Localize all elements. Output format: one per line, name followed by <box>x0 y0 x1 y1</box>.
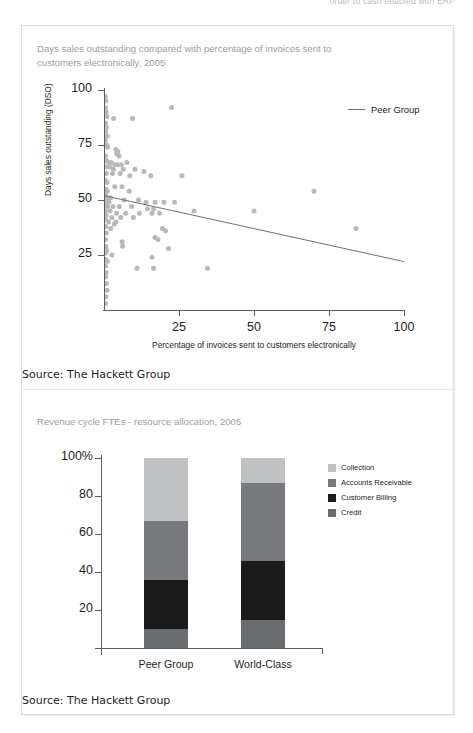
scatter-dot <box>127 189 132 194</box>
scatter-y-tick-label: 50 <box>58 191 92 205</box>
scatter-x-tick-label: 100 <box>384 320 424 334</box>
legend-swatch-icon <box>328 509 336 517</box>
scatter-dot <box>162 200 167 205</box>
bar-category-label: Peer Group <box>116 658 216 670</box>
scatter-dot <box>252 209 257 214</box>
scatter-y-tick-label: 100 <box>58 81 92 95</box>
bar-column <box>144 458 188 648</box>
legend-item: Accounts Receivable <box>328 475 412 490</box>
scatter-dot <box>105 189 110 194</box>
scatter-dot <box>105 259 110 264</box>
scatter-legend: Peer Group <box>348 104 419 115</box>
scatter-dot <box>105 288 110 293</box>
legend-item: Credit <box>328 505 412 520</box>
scatter-dot <box>109 215 114 220</box>
scatter-dot <box>117 154 122 159</box>
scatter-dot <box>157 211 162 216</box>
legend-line-icon <box>348 109 365 110</box>
bar-segment <box>144 629 188 648</box>
scatter-dot <box>124 160 129 165</box>
scatter-dot <box>119 162 124 167</box>
legend-item: Customer Billing <box>328 490 412 505</box>
scatter-dot <box>156 237 161 242</box>
bar-y-tick <box>95 496 101 497</box>
bar-segment <box>241 561 285 620</box>
scatter-dot <box>205 266 210 271</box>
scatter-dot <box>121 167 126 172</box>
bar-segment <box>144 521 188 580</box>
scatter-dot <box>137 211 142 216</box>
scatter-y-tick <box>98 90 104 91</box>
running-head: order to cash enabled with ERP <box>0 0 455 5</box>
legend-swatch-icon <box>328 464 336 472</box>
panel-divider <box>22 389 453 390</box>
scatter-x-tick <box>179 310 180 316</box>
scatter-dot <box>354 226 359 231</box>
scatter-dot <box>110 171 115 176</box>
scatter-dot <box>106 220 111 225</box>
scatter-dot <box>150 255 155 260</box>
scatter-dot <box>166 246 171 251</box>
scatter-x-tick-label: 50 <box>234 320 274 334</box>
scatter-dot <box>163 228 168 233</box>
bar-segment <box>144 580 188 629</box>
scatter-dot <box>127 173 132 178</box>
bar-y-tick-label: 20 <box>49 601 93 615</box>
scatter-dot <box>130 116 135 121</box>
trend-line <box>104 196 404 262</box>
scatter-dot <box>192 209 197 214</box>
scatter-y-axis <box>104 88 105 310</box>
scatter-source-note: Source: The Hackett Group <box>22 368 170 381</box>
legend-swatch-icon <box>328 494 336 502</box>
scatter-dot <box>105 145 110 150</box>
bar-chart-title: Revenue cycle FTEs - resource allocation… <box>37 416 241 427</box>
scatter-dot <box>105 134 110 139</box>
scatter-dot <box>169 105 174 110</box>
scatter-dot <box>129 204 134 209</box>
scatter-dot <box>118 215 123 220</box>
scatter-dot <box>105 180 110 185</box>
scatter-dot <box>112 184 117 189</box>
bar-y-tick <box>95 534 101 535</box>
scatter-dot <box>111 116 116 121</box>
scatter-dot <box>136 198 141 203</box>
scatter-y-tick-label: 25 <box>58 246 92 260</box>
bar-segment <box>241 458 285 483</box>
page-root: order to cash enabled with ERP Days sale… <box>0 0 473 733</box>
scatter-x-tick-label: 25 <box>159 320 199 334</box>
scatter-dot <box>120 239 125 244</box>
legend-item-label: Credit <box>341 508 361 517</box>
scatter-dot <box>118 171 123 176</box>
scatter-legend-label: Peer Group <box>371 104 419 115</box>
bar-y-tick <box>95 572 101 573</box>
legend-item-label: Accounts Receivable <box>341 478 412 487</box>
scatter-dot <box>105 114 110 119</box>
scatter-x-tick-label: 75 <box>309 320 349 334</box>
scatter-dot <box>109 253 114 258</box>
bar-y-tick-label: 60 <box>49 525 93 539</box>
scatter-chart-title: Days sales outstanding compared with per… <box>37 42 367 69</box>
scatter-dot <box>123 211 128 216</box>
bar-segment <box>144 458 188 521</box>
scatter-dot <box>312 189 317 194</box>
bar-segment <box>241 620 285 649</box>
scatter-dot <box>131 215 136 220</box>
bar-chart: 20406080100% Peer GroupWorld-Class <box>101 458 323 648</box>
bar-y-tick <box>95 458 101 459</box>
bar-y-axis <box>101 455 102 651</box>
scatter-y-tick <box>98 255 104 256</box>
scatter-dot <box>106 200 111 205</box>
bar-axis-end-tick <box>322 648 323 654</box>
scatter-y-tick-label: 75 <box>58 136 92 150</box>
bar-y-tick-label: 80 <box>49 487 93 501</box>
scatter-x-tick <box>329 310 330 316</box>
bar-segment <box>241 483 285 561</box>
scatter-dot <box>151 266 156 271</box>
legend-swatch-icon <box>328 479 336 487</box>
scatter-x-tick <box>254 310 255 316</box>
scatter-dot <box>120 184 125 189</box>
scatter-dot <box>105 204 110 209</box>
scatter-dot <box>148 173 153 178</box>
scatter-dot <box>180 173 185 178</box>
scatter-dot <box>108 226 113 231</box>
